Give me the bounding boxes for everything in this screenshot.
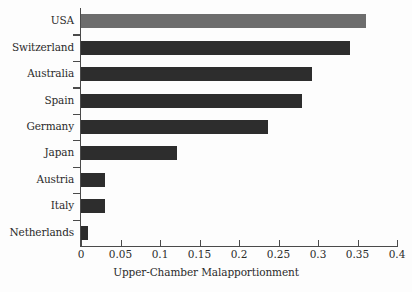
bar-austria	[81, 173, 105, 187]
x-axis-tick	[318, 240, 319, 246]
bar-row	[81, 146, 397, 160]
x-axis-tick-label: 0.4	[389, 248, 406, 260]
x-axis-tick	[358, 240, 359, 246]
x-axis-title: Upper-Chamber Malapportionment	[0, 266, 412, 278]
bar-netherlands	[81, 226, 88, 240]
y-axis-label-australia: Australia	[0, 67, 74, 79]
bar-row	[81, 120, 397, 134]
y-axis-tick	[73, 167, 81, 168]
y-axis-label-japan: Japan	[0, 146, 74, 158]
bar-row	[81, 41, 397, 55]
bar-italy	[81, 199, 105, 213]
x-axis-tick-label: 0.1	[152, 248, 169, 260]
y-axis-label-austria: Austria	[0, 173, 74, 185]
y-axis-tick	[73, 87, 81, 88]
bar-row	[81, 226, 397, 240]
y-axis-tick	[73, 34, 81, 35]
y-axis-tick	[73, 114, 81, 115]
x-axis-tick-label: 0	[78, 248, 85, 260]
y-axis-tick	[73, 140, 81, 141]
y-axis-label-italy: Italy	[0, 199, 74, 211]
bar-switzerland	[81, 41, 350, 55]
y-axis-label-netherlands: Netherlands	[0, 226, 74, 238]
x-axis-tick	[397, 240, 398, 246]
x-axis-tick	[239, 240, 240, 246]
bar-row	[81, 199, 397, 213]
bar-row	[81, 173, 397, 187]
plot-area	[81, 8, 397, 246]
bar-spain	[81, 94, 302, 108]
x-axis-tick-label: 0.05	[109, 248, 132, 260]
x-axis-tick	[279, 240, 280, 246]
x-axis-tick	[160, 240, 161, 246]
bar-germany	[81, 120, 268, 134]
x-axis-tick-label: 0.25	[267, 248, 290, 260]
bar-row	[81, 94, 397, 108]
x-axis-tick	[121, 240, 122, 246]
x-axis-tick	[81, 240, 82, 246]
x-axis-tick-label: 0.35	[346, 248, 369, 260]
bar-japan	[81, 146, 177, 160]
bar-row	[81, 14, 397, 28]
x-axis-tick-label: 0.3	[310, 248, 327, 260]
y-axis-label-spain: Spain	[0, 94, 74, 106]
x-axis-tick	[200, 240, 201, 246]
bar-usa	[81, 14, 366, 28]
y-axis-tick	[73, 193, 81, 194]
bar-row	[81, 67, 397, 81]
x-axis-tick-label: 0.2	[231, 248, 248, 260]
y-axis-label-switzerland: Switzerland	[0, 41, 74, 53]
y-axis-label-germany: Germany	[0, 120, 74, 132]
y-axis-tick	[73, 61, 81, 62]
bar-australia	[81, 67, 312, 81]
x-axis-tick-label: 0.15	[188, 248, 211, 260]
y-axis-tick	[73, 220, 81, 221]
y-axis-label-usa: USA	[0, 14, 74, 26]
bar-chart-figure: USASwitzerlandAustraliaSpainGermanyJapan…	[0, 0, 412, 292]
